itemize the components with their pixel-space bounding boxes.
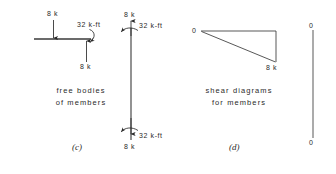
label-force-8k-top-horizontal: 8 k xyxy=(47,9,58,19)
caption-shear-diagrams-line1: shear diagrams xyxy=(185,85,293,97)
caption-free-bodies-line1: free bodies xyxy=(33,85,129,97)
shear-value-zero-bottom-vertical: 0 xyxy=(309,138,314,148)
moment-arc-32kft-horizontal xyxy=(90,30,95,42)
moment-arc-32kft-vertical-bottom xyxy=(122,128,139,132)
caption-shear-diagrams-line2: for members xyxy=(185,97,293,109)
figure-label-d: (d) xyxy=(229,142,240,152)
caption-shear-diagrams: shear diagrams for members xyxy=(185,85,293,109)
label-moment-32kft-vertical-bottom: 32 k-ft xyxy=(139,131,163,141)
shear-value-zero-left: 0 xyxy=(192,26,197,36)
label-force-8k-right-horizontal: 8 k xyxy=(80,62,91,72)
label-moment-32kft-vertical-top: 32 k-ft xyxy=(139,21,163,31)
shear-slope-line xyxy=(202,32,276,63)
label-force-8k-bottom-vertical: 8 k xyxy=(124,142,135,152)
shear-value-8k-right: 8 k xyxy=(266,63,277,73)
moment-arc-32kft-vertical-top xyxy=(122,28,139,32)
shear-value-zero-top-vertical: 0 xyxy=(309,21,314,31)
figure-label-c: (c) xyxy=(72,142,82,152)
label-moment-32kft-horizontal: 32 k-ft xyxy=(77,20,101,30)
label-force-8k-top-vertical: 8 k xyxy=(124,10,135,20)
caption-free-bodies-line2: of members xyxy=(33,97,129,109)
caption-free-bodies: free bodies of members xyxy=(33,85,129,109)
figure-canvas: 8 k 8 k 32 k-ft 8 k 32 k-ft 32 k-ft 8 k … xyxy=(0,0,336,174)
